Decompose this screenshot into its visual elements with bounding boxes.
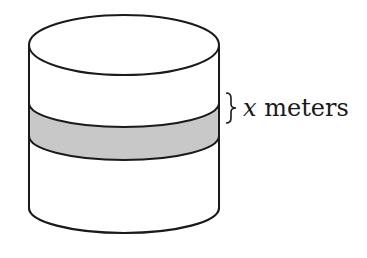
unit-meters: meters: [257, 94, 349, 122]
band-height-label: x meters: [243, 94, 349, 122]
brace-icon: [226, 93, 236, 123]
cylinder-figure: x meters: [0, 0, 367, 258]
cylinder-bottom-edge: [29, 208, 219, 233]
shaded-band: [29, 103, 219, 160]
variable-x: x: [243, 94, 257, 122]
cylinder-top-ellipse: [29, 15, 219, 75]
